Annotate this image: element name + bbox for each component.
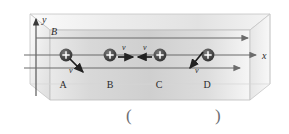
charge-B-velocity-label: v: [122, 43, 126, 52]
charge-label-C: C: [156, 79, 163, 90]
charge-D-velocity-label: v: [195, 66, 199, 75]
x-axis-label: x: [261, 50, 267, 61]
charge-C-velocity-label: v: [143, 43, 147, 52]
answer-row: ( ): [0, 104, 289, 134]
answer-open-paren: (: [126, 106, 132, 126]
charge-label-A: A: [59, 79, 67, 90]
box-front-face: [50, 30, 250, 100]
y-axis-label: y: [41, 14, 47, 25]
answer-close-paren: ): [215, 106, 221, 126]
charge-label-D: D: [203, 79, 210, 90]
magnetic-field-label: B: [51, 26, 57, 37]
charge-label-B: B: [107, 79, 114, 90]
box-top-face: [30, 14, 270, 30]
charge-A-velocity-label: v: [69, 66, 73, 75]
